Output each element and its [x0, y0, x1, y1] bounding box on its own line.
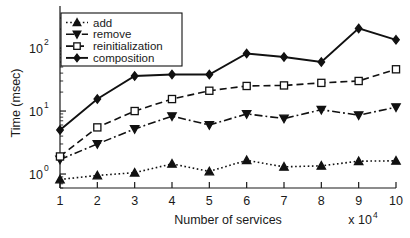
x-axis-multiplier: x 104 [348, 210, 378, 227]
marker-triangle-down-icon [130, 126, 138, 134]
y-tick-label-base: 10 [29, 105, 43, 119]
x-tick-label: 9 [355, 194, 362, 208]
y-tick-label-base: 10 [29, 42, 43, 56]
y-tick-label: 102 [29, 37, 49, 56]
figure: 10010110212345678910Number of servicesx … [0, 0, 410, 238]
marker-diamond-icon [393, 36, 400, 44]
series-remove [56, 104, 400, 164]
x-tick-label: 3 [131, 194, 138, 208]
x-tick-label: 4 [169, 194, 176, 208]
legend-label-remove: remove [93, 28, 131, 40]
x-axis-multiplier-base: x 10 [348, 213, 372, 227]
marker-square-icon [355, 77, 362, 84]
y-tick-label-exponent: 0 [44, 163, 49, 173]
x-tick-label: 10 [389, 194, 403, 208]
marker-square-icon [168, 95, 175, 102]
series-line-add [60, 160, 396, 179]
marker-diamond-icon [169, 70, 176, 78]
y-tick-label-exponent: 2 [44, 37, 49, 47]
marker-triangle-up-icon [317, 162, 325, 170]
marker-square-icon [318, 79, 325, 86]
legend: addremovereinitializationcomposition [61, 13, 182, 66]
marker-triangle-up-icon [242, 156, 250, 164]
y-axis-title: Time (msec) [9, 69, 23, 138]
marker-square-icon [94, 124, 101, 131]
x-tick-label: 5 [206, 194, 213, 208]
series-add [56, 156, 400, 183]
marker-diamond-icon [281, 53, 288, 61]
marker-diamond-icon [131, 72, 138, 80]
y-tick-label-base: 10 [29, 168, 43, 182]
y-tick-label-exponent: 1 [44, 100, 49, 110]
marker-square-icon [131, 107, 138, 114]
marker-diamond-icon [243, 49, 250, 57]
x-tick-label: 7 [281, 194, 288, 208]
x-tick-label: 1 [57, 194, 64, 208]
marker-square-icon [243, 82, 250, 89]
x-tick-label: 8 [318, 194, 325, 208]
marker-triangle-down-icon [205, 122, 213, 130]
chart-canvas: 10010110212345678910Number of servicesx … [0, 0, 410, 238]
marker-square-icon [206, 87, 213, 94]
legend-label-composition: composition [93, 52, 154, 64]
x-tick-label: 2 [94, 194, 101, 208]
legend-label-reinitialization: reinitialization [93, 40, 163, 52]
marker-triangle-down-icon [392, 104, 400, 112]
marker-square-icon [56, 153, 63, 160]
marker-triangle-up-icon [354, 157, 362, 165]
marker-square-icon [280, 82, 287, 89]
series-line-remove [60, 107, 396, 159]
marker-diamond-icon [206, 70, 213, 78]
marker-square-icon [74, 43, 80, 49]
marker-triangle-up-icon [392, 157, 400, 165]
x-axis-title: Number of services [174, 213, 282, 227]
marker-triangle-up-icon [168, 160, 176, 168]
x-tick-label: 6 [243, 194, 250, 208]
series-line-reinitialization [60, 69, 396, 156]
marker-triangle-down-icon [354, 112, 362, 120]
y-tick-label: 100 [29, 163, 49, 182]
y-tick-label: 101 [29, 100, 49, 119]
x-axis-multiplier-exponent: 4 [373, 210, 378, 220]
marker-triangle-up-icon [56, 175, 64, 183]
marker-square-icon [392, 66, 399, 73]
legend-label-add: add [93, 17, 112, 29]
